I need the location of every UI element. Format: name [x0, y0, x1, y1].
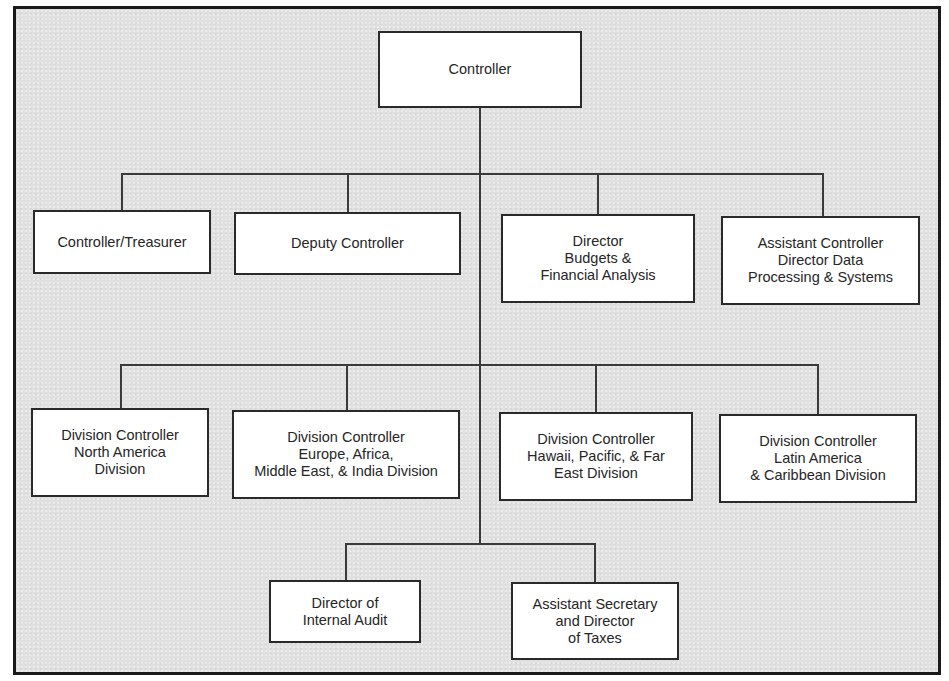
node-internal-audit: Director of Internal Audit	[269, 580, 421, 643]
node-div-europe: Division Controller Europe, Africa, Midd…	[232, 410, 460, 499]
drop-taxes	[594, 543, 596, 583]
staff-bus-line	[121, 173, 824, 175]
bottom-bus-line	[345, 543, 596, 545]
drop-controller-treasurer	[121, 173, 123, 211]
node-div-north-america: Division Controller North America Divisi…	[31, 408, 209, 497]
node-controller-treasurer: Controller/Treasurer	[33, 210, 211, 274]
node-taxes: Assistant Secretary and Director of Taxe…	[511, 582, 679, 660]
drop-div-hawaii	[595, 366, 597, 413]
node-div-latin-america: Division Controller Latin America & Cari…	[719, 414, 917, 503]
drop-div-latin-america	[817, 366, 819, 415]
drop-assistant-controller	[822, 175, 824, 217]
node-director-budgets: Director Budgets & Financial Analysis	[501, 214, 695, 303]
drop-director-budgets	[597, 175, 599, 215]
drop-internal-audit	[345, 543, 347, 581]
node-assistant-controller: Assistant Controller Director Data Proce…	[721, 216, 920, 305]
node-div-hawaii: Division Controller Hawaii, Pacific, & F…	[499, 412, 693, 501]
node-controller: Controller	[378, 31, 582, 108]
drop-div-europe	[346, 364, 348, 411]
drop-div-north-america	[120, 364, 122, 409]
node-deputy-controller: Deputy Controller	[234, 212, 461, 275]
drop-deputy-controller	[347, 173, 349, 213]
division-bus-line	[120, 364, 819, 366]
